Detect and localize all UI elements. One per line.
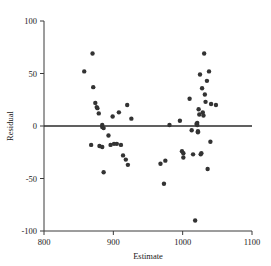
scatter-point (205, 79, 209, 83)
scatter-point (203, 100, 207, 104)
x-tick-label: 800 (38, 237, 51, 247)
scatter-point (195, 121, 199, 125)
scatter-point (100, 145, 104, 149)
scatter-point (162, 182, 166, 186)
scatter-point (187, 97, 191, 101)
scatter-point (121, 153, 125, 157)
scatter-point (93, 101, 97, 105)
scatter-point (101, 170, 105, 174)
scatter-point (125, 103, 129, 107)
scatter-point (126, 163, 130, 167)
y-tick-label: -50 (26, 174, 37, 184)
residual-scatter-figure: -100-50050100 80090010001100 Residual Es… (0, 0, 271, 266)
scatter-point (167, 123, 171, 127)
scatter-point (163, 158, 167, 162)
x-tick-label: 1100 (244, 237, 261, 247)
scatter-point (209, 102, 213, 106)
scatter-point (196, 130, 200, 134)
scatter-point (193, 218, 197, 222)
scatter-point (106, 133, 110, 137)
scatter-point (201, 113, 205, 117)
scatter-point (200, 86, 204, 90)
scatter-point (208, 140, 212, 144)
scatter-point (158, 162, 162, 166)
scatter-point (119, 143, 123, 147)
scatter-point (110, 114, 114, 118)
y-tick-label: 0 (33, 121, 37, 131)
scatter-point (189, 128, 193, 132)
x-tick-label: 900 (107, 237, 120, 247)
scatter-point (203, 92, 207, 96)
scatter-point (181, 151, 185, 155)
scatter-point (115, 142, 119, 146)
scatter-point (117, 110, 121, 114)
x-axis-ticks: 80090010001100 (38, 231, 261, 247)
scatter-point (205, 167, 209, 171)
scatter-point (191, 152, 195, 156)
scatter-point (91, 85, 95, 89)
y-tick-label: 100 (24, 16, 37, 26)
y-axis-ticks: -100-50050100 (21, 16, 44, 236)
y-tick-label: -100 (21, 226, 37, 236)
scatter-point (101, 126, 105, 130)
scatter-point (95, 106, 99, 110)
scatter-point (90, 51, 94, 55)
scatter-point (97, 111, 101, 115)
scatter-plot-canvas: -100-50050100 80090010001100 Residual Es… (0, 0, 271, 266)
scatter-point (198, 72, 202, 76)
scatter-point (196, 107, 200, 111)
scatter-point (202, 51, 206, 55)
x-tick-label: 1000 (174, 237, 191, 247)
y-tick-label: 50 (29, 69, 38, 79)
data-points-group (82, 51, 218, 222)
scatter-point (178, 119, 182, 123)
scatter-point (207, 69, 211, 73)
y-axis-title: Residual (5, 110, 15, 140)
scatter-point (214, 103, 218, 107)
x-axis-title: Estimate (133, 251, 163, 261)
scatter-point (129, 116, 133, 120)
scatter-point (199, 151, 203, 155)
scatter-point (181, 155, 185, 159)
scatter-point (89, 143, 93, 147)
scatter-point (124, 157, 128, 161)
scatter-point (82, 69, 86, 73)
